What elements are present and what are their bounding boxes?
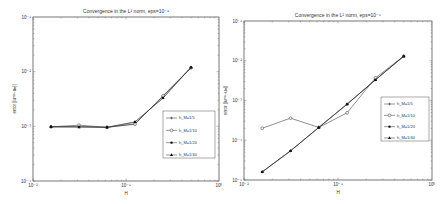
x-tick-label: 10⁻¹ (121, 183, 131, 188)
y-axis-label: error ||uᵐˢ−uₕ|| (223, 86, 228, 115)
legend-entry: h_M=1/40 (179, 152, 198, 157)
x-axis-label: H (124, 191, 127, 196)
y-tick-label: 10⁻⁵ (232, 178, 242, 183)
legend: h_M=1/5h_M=1/10h_M=1/20h_M=1/40 (381, 97, 429, 141)
legend-entry: h_M=1/5 (397, 101, 413, 106)
x-tick-label: 10⁰ (428, 182, 435, 187)
x-axis-label: H (336, 190, 339, 195)
y-axis-label: error ||uᵐˢ−uₕ|| (12, 84, 17, 113)
x-tick-label: 10⁰ (215, 183, 222, 188)
x-tick-label: 10⁻² (28, 183, 38, 188)
legend: h_M=1/5h_M=1/10h_M=1/20h_M=1/40 (163, 111, 215, 158)
chart-title: Convergence in the L² norm, eps=10⁻¹ (83, 8, 169, 14)
x-tick-label: 10⁻¹ (333, 182, 343, 187)
y-tick-label: 10⁻¹ (232, 19, 242, 24)
legend-entry: h_M=1/5 (179, 115, 195, 120)
y-tick-label: 10⁻³ (21, 124, 31, 129)
legend-entry: h_M=1/20 (397, 124, 416, 129)
y-tick-label: 10⁻² (21, 69, 31, 74)
y-tick-label: 10⁻¹ (21, 15, 31, 20)
y-tick-label: 10⁻³ (232, 98, 242, 103)
chart-title: Convergence in the L² norm, eps=10⁻⁵ (295, 12, 381, 18)
legend-entry: h_M=1/10 (179, 128, 198, 133)
legend-entry: h_M=1/10 (397, 113, 416, 118)
y-tick-label: 10⁻² (232, 58, 242, 63)
y-tick-label: 10⁻⁴ (232, 138, 242, 143)
legend-entry: h_M=1/40 (397, 135, 416, 140)
legend-entry: h_M=1/20 (179, 140, 198, 145)
y-tick-label: 10⁻⁴ (21, 179, 31, 184)
chart-panel-1: 10⁻²10⁻¹10⁰10⁻⁴10⁻³10⁻²10⁻¹Convergence i… (12, 8, 223, 196)
chart-panel-2: 10⁻²10⁻¹10⁰10⁻⁵10⁻⁴10⁻³10⁻²10⁻¹Convergen… (223, 12, 436, 195)
x-tick-label: 10⁻² (239, 182, 249, 187)
figure: 10⁻²10⁻¹10⁰10⁻⁴10⁻³10⁻²10⁻¹Convergence i… (0, 0, 447, 204)
